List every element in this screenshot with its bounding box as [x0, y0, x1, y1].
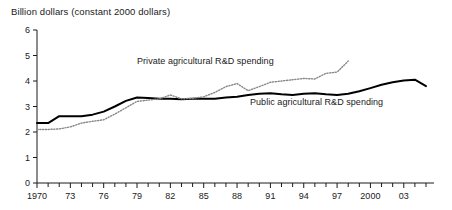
y-tick-label: 2: [25, 127, 30, 137]
x-tick-label: 82: [165, 191, 175, 201]
y-tick-label: 5: [25, 51, 30, 61]
chart-plot-area: 0123456 1970737679828588919497200003: [0, 0, 452, 210]
x-tick-label: 03: [399, 191, 409, 201]
y-tick-label: 1: [25, 153, 30, 163]
y-tick-label: 0: [25, 178, 30, 188]
x-tick-label: 88: [232, 191, 242, 201]
x-tick-label: 2000: [360, 191, 380, 201]
private-series-label: Private agricultural R&D spending: [137, 56, 274, 67]
chart-container: Billion dollars (constant 2000 dollars) …: [0, 0, 452, 210]
x-tick-label: 1970: [27, 191, 47, 201]
series-line-private: [37, 61, 348, 129]
x-tick-label: 91: [265, 191, 275, 201]
public-series-label: Public agricultural R&D spending: [250, 97, 383, 108]
data-series-group: [37, 61, 426, 129]
y-axis: 0123456: [25, 25, 37, 188]
x-tick-label: 85: [199, 191, 209, 201]
y-tick-label: 6: [25, 25, 30, 35]
x-tick-label: 94: [299, 191, 309, 201]
x-tick-label: 79: [132, 191, 142, 201]
x-tick-label: 73: [65, 191, 75, 201]
y-tick-label: 4: [25, 76, 30, 86]
y-tick-label: 3: [25, 102, 30, 112]
x-axis: 1970737679828588919497200003: [27, 183, 434, 201]
x-tick-label: 97: [332, 191, 342, 201]
x-tick-label: 76: [99, 191, 109, 201]
